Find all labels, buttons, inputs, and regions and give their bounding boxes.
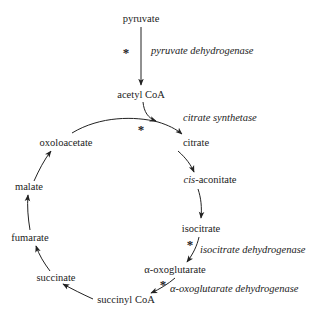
krebs-cycle-diagram: pyruvate acetyl CoA oxoloacetate citrate… <box>0 0 321 314</box>
enzyme-pyruvate-dehydrogenase: pyruvate dehydrogenase <box>150 45 254 56</box>
enzyme-alpha-oxoglutarate-dehydrogenase: α-oxoglutarate dehydrogenase <box>170 283 299 294</box>
node-malate: malate <box>15 181 43 192</box>
marker-alpha-oxoglutarate-dehydrogenase: * <box>160 277 167 292</box>
node-fumarate: fumarate <box>11 232 49 243</box>
arrow-malate-to-oxoloacetate <box>34 151 51 181</box>
node-citrate: citrate <box>183 137 210 148</box>
node-pyruvate: pyruvate <box>123 13 160 24</box>
marker-citrate-synthetase: * <box>138 122 145 137</box>
enzyme-citrate-synthetase: citrate synthetase <box>183 112 257 123</box>
arrow-fumarate-to-malate <box>28 195 30 230</box>
marker-pyruvate-dehydrogenase: * <box>123 45 130 60</box>
node-oxoloacetate: oxoloacetate <box>39 137 92 148</box>
node-isocitrate: isocitrate <box>182 223 221 234</box>
arrow-oxoloacetate-to-citrate <box>72 118 182 134</box>
node-alpha-oxoglutarate: α-oxoglutarate <box>144 264 206 275</box>
node-acetyl-coa: acetyl CoA <box>117 89 165 100</box>
arrow-succinate-to-fumarate <box>36 246 50 271</box>
enzyme-isocitrate-dehydrogenase: isocitrate dehydrogenase <box>200 244 306 255</box>
cis-prefix: cis <box>183 174 195 185</box>
node-cis-aconitate: cis-aconitate <box>183 174 236 185</box>
arrow-succinyl-coa-to-succinate <box>63 284 93 299</box>
arrow-acetyl-coa-join <box>143 102 156 121</box>
node-succinate: succinate <box>36 272 75 283</box>
marker-isocitrate-dehydrogenase: * <box>187 237 194 252</box>
arrow-cis-aconitate-to-isocitrate <box>198 189 201 218</box>
aconitate-suffix: -aconitate <box>195 174 237 185</box>
arrow-citrate-to-cis-aconitate <box>178 151 194 172</box>
node-succinyl-coa: succinyl CoA <box>97 294 155 305</box>
